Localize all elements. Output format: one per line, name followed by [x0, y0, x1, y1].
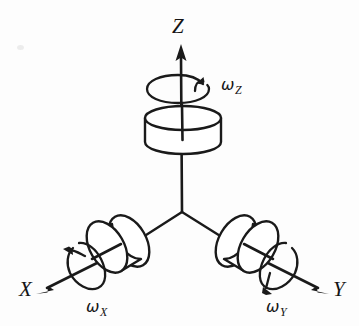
omega-z-rotation-arrow	[147, 75, 209, 103]
figure-canvas: Z X Y ωZ ωX ωY	[0, 0, 359, 326]
wheel-y	[207, 208, 286, 279]
wheel-z	[145, 105, 221, 154]
omega-y-arrow-hook	[266, 273, 270, 288]
y-axis-label: Y	[333, 279, 345, 300]
omega-y-symbol: ω	[266, 297, 279, 316]
z-axis-label: Z	[172, 16, 184, 37]
omega-y-label: ωY	[266, 298, 287, 318]
axes-diagram-svg	[0, 0, 359, 326]
omega-x-subscript: X	[100, 305, 107, 319]
x-axis-label: X	[19, 279, 32, 300]
omega-z-symbol: ω	[221, 75, 234, 94]
omega-y-subscript: Y	[280, 305, 287, 319]
omega-z-arc	[147, 75, 209, 103]
wheel-z-shaft-through	[182, 105, 183, 140]
omega-x-symbol: ω	[86, 297, 99, 316]
omega-z-label: ωZ	[221, 76, 242, 96]
omega-x-label: ωX	[86, 298, 107, 318]
wheel-x	[78, 208, 157, 279]
omega-z-subscript: Z	[235, 83, 242, 97]
